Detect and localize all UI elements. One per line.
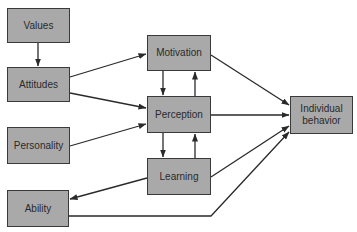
- node-label: Attitudes: [19, 79, 58, 91]
- node-label: Motivation: [156, 47, 202, 59]
- edge-learning-ability: [70, 178, 147, 199]
- node-label: Individual behavior: [297, 103, 346, 127]
- node-label: Perception: [155, 109, 203, 121]
- node-perception: Perception: [147, 96, 211, 133]
- node-individual-behavior: Individual behavior: [290, 96, 353, 134]
- node-values: Values: [7, 8, 70, 43]
- node-label: Values: [24, 20, 54, 32]
- edge-personality-perception: [70, 124, 146, 146]
- edge-attitudes-perception: [70, 93, 146, 108]
- node-label: Learning: [160, 171, 199, 183]
- edge-motivation-behavior: [211, 55, 289, 105]
- node-label: Personality: [14, 140, 63, 152]
- node-learning: Learning: [147, 158, 211, 195]
- edge-attitudes-motivation: [70, 54, 146, 77]
- diagram-canvas: Values Attitudes Personality Ability Mot…: [0, 0, 357, 232]
- edge-learning-behavior: [211, 126, 289, 177]
- node-motivation: Motivation: [147, 35, 211, 71]
- node-ability: Ability: [7, 190, 69, 227]
- node-personality: Personality: [7, 127, 70, 164]
- node-attitudes: Attitudes: [7, 67, 70, 102]
- node-label: Ability: [25, 203, 52, 215]
